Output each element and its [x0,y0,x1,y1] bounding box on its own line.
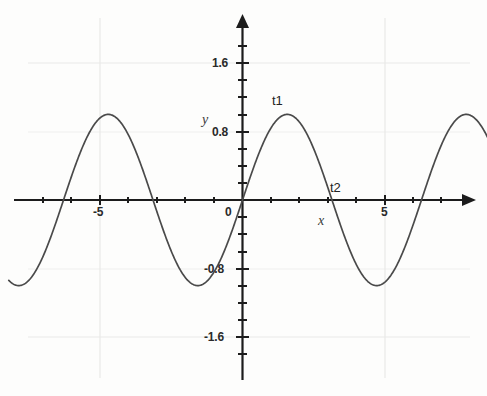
plot-canvas [0,0,487,396]
x-tick-label-five: 5 [381,205,387,219]
x-axis-label: x [318,213,324,229]
y-tick-label-neg-0-8: -0.8 [204,262,224,276]
y-axis [236,14,249,380]
annotation-t2: t2 [330,180,341,195]
gridlines-group [28,18,470,378]
y-tick-label-1-6: 1.6 [212,56,228,70]
y-tick-label-neg-1-6: -1.6 [204,330,224,344]
sine-graph-figure: -5 0 5 1.6 0.8 -0.8 -1.6 y x t1 t2 [0,0,487,396]
y-tick-label-0-8: 0.8 [212,125,228,139]
y-axis-label: y [202,112,208,128]
x-axis-arrowhead [462,194,476,206]
x-axis [14,194,476,206]
y-axis-arrowhead [236,14,249,28]
annotation-t1: t1 [272,93,283,108]
x-tick-label-zero: 0 [225,205,231,219]
x-tick-label-neg-five: -5 [93,205,103,219]
